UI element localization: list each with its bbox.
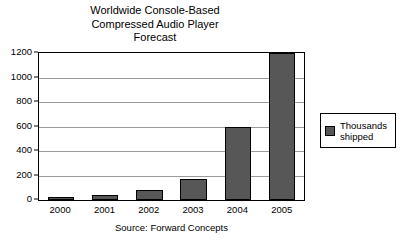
legend-label-thousands-shipped: Thousands shipped <box>340 120 387 142</box>
bar-slot-2001 <box>83 53 127 200</box>
bar-series <box>39 53 304 200</box>
legend-label-line-1: Thousands <box>340 120 387 131</box>
bar-2000 <box>48 197 74 200</box>
source-note: Source: Forward Concepts <box>38 222 305 233</box>
y-tick-label-1000: 1000 <box>11 72 32 82</box>
x-tick-label-2001: 2001 <box>82 204 126 215</box>
bar-slot-2004 <box>216 53 260 200</box>
chart-title: Worldwide Console-Based Compressed Audio… <box>0 4 310 45</box>
bar-2004 <box>225 127 251 201</box>
bar-2005 <box>269 53 295 200</box>
bar-slot-2000 <box>39 53 83 200</box>
bar-slot-2003 <box>172 53 216 200</box>
x-tick-label-2004: 2004 <box>215 204 259 215</box>
chart-title-line-3: Forecast <box>0 31 310 45</box>
legend-swatch-thousands-shipped <box>325 126 335 136</box>
y-tick-label-200: 200 <box>16 170 32 180</box>
x-tick-label-2002: 2002 <box>127 204 171 215</box>
x-tick-label-2005: 2005 <box>260 204 304 215</box>
bar-2002 <box>136 190 162 200</box>
plot-area <box>38 52 305 201</box>
y-tick-label-0: 0 <box>27 194 32 204</box>
x-tick-label-2003: 2003 <box>171 204 215 215</box>
chart-title-line-1: Worldwide Console-Based <box>0 4 310 18</box>
y-tick-label-400: 400 <box>16 145 32 155</box>
y-tick-label-600: 600 <box>16 121 32 131</box>
x-tick-label-2000: 2000 <box>38 204 82 215</box>
y-tick-label-1200: 1200 <box>11 47 32 57</box>
y-tick-label-800: 800 <box>16 96 32 106</box>
bar-2001 <box>92 195 118 200</box>
bar-slot-2005 <box>260 53 304 200</box>
legend-label-line-2: shipped <box>340 131 373 142</box>
bar-2003 <box>180 179 206 200</box>
x-axis: 200020012002200320042005 <box>38 204 305 215</box>
bar-slot-2002 <box>127 53 171 200</box>
legend: Thousands shipped <box>320 113 396 148</box>
chart-title-line-2: Compressed Audio Player <box>0 18 310 32</box>
y-axis: 020040060080010001200 <box>0 52 38 201</box>
